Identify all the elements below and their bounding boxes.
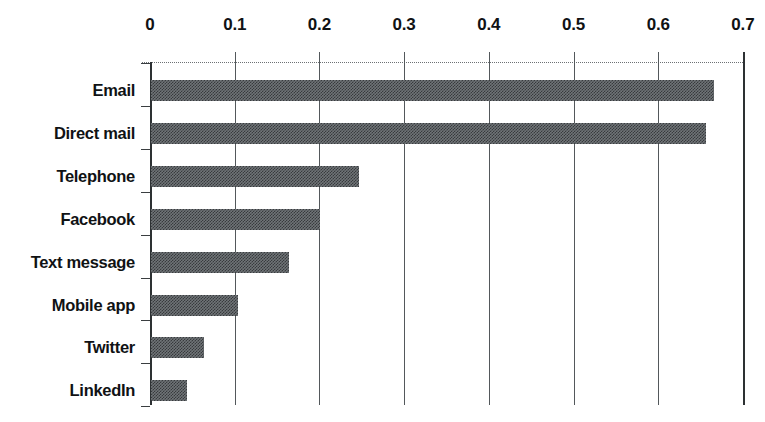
x-tick-label-0-1: 0.1	[223, 15, 246, 35]
y-axis-category-labels: EmailDirect mailTelephoneFacebookText me…	[0, 62, 135, 405]
x-tick-label-0-4: 0.4	[477, 15, 500, 35]
x-tick-label-0: 0	[145, 15, 154, 35]
bar-telephone	[151, 166, 359, 187]
gridline-0-4	[489, 52, 490, 405]
x-tick-label-0-7: 0.7	[731, 15, 754, 35]
y-tick-4	[141, 235, 150, 236]
y-label-twitter: Twitter	[0, 338, 135, 357]
x-tick-label-0-2: 0.2	[308, 15, 331, 35]
bar-mobile-app	[151, 295, 238, 316]
bar-email	[151, 80, 714, 101]
bar-facebook	[151, 209, 320, 230]
bar-chart: 00.10.20.30.40.50.60.7 EmailDirect mailT…	[0, 0, 765, 422]
bar-twitter	[151, 337, 204, 358]
x-tick-label-0-6: 0.6	[647, 15, 670, 35]
y-tick-5	[141, 278, 150, 279]
y-tick-end	[141, 406, 150, 407]
bar-direct-mail	[151, 123, 706, 144]
y-label-email: Email	[0, 81, 135, 100]
y-label-text-message: Text message	[0, 253, 135, 272]
y-tick-3	[141, 192, 150, 193]
y-label-linkedin: LinkedIn	[0, 381, 135, 400]
y-label-facebook: Facebook	[0, 210, 135, 229]
plot-area	[150, 62, 743, 405]
axis-right-line	[743, 52, 745, 405]
y-tick-7	[141, 363, 150, 364]
y-label-telephone: Telephone	[0, 167, 135, 186]
y-tick-2	[141, 149, 150, 150]
gridline-0-3	[404, 52, 405, 405]
axis-top-line	[142, 62, 743, 63]
y-tick-0	[141, 63, 150, 64]
bar-text-message	[151, 252, 289, 273]
y-tick-1	[141, 106, 150, 107]
x-tick-label-0-5: 0.5	[562, 15, 585, 35]
x-tick-label-0-3: 0.3	[393, 15, 416, 35]
bar-linkedin	[151, 380, 187, 401]
gridline-0-6	[658, 52, 659, 405]
y-label-direct-mail: Direct mail	[0, 124, 135, 143]
gridline-0-5	[574, 52, 575, 405]
y-tick-6	[141, 320, 150, 321]
y-label-mobile-app: Mobile app	[0, 296, 135, 315]
